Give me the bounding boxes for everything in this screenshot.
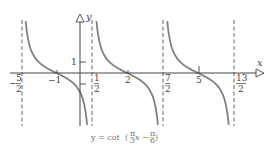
x-axis-label: x	[257, 57, 263, 68]
x-tick-label-1-den: 2	[94, 84, 100, 94]
y-tick-label-1: 1	[71, 57, 77, 67]
x-tick-label-13-num: 13	[236, 73, 248, 83]
x-tick-label-5: 5	[196, 75, 202, 85]
x-tick-label-13-den: 2	[238, 84, 244, 94]
x-axis-arrow-icon	[256, 69, 264, 77]
x-tick-label-7-num: 7	[165, 73, 171, 83]
y-axis-label: y	[85, 11, 92, 22]
caption-x-minus: x −	[135, 133, 149, 142]
caption-paren-close: )	[155, 133, 158, 142]
function-caption: y = cot ( π 3 x − π 6 )	[90, 129, 158, 145]
x-tick-label-2: 2	[125, 75, 131, 85]
cotangent-graph: x y 1 − 5 2 −1 1 2 2 7 2 5 13 2 y = cot …	[0, 0, 266, 146]
caption-prefix: y = cot	[90, 133, 121, 142]
y-axis-arrow-icon	[76, 14, 84, 22]
caption-paren-open: (	[125, 133, 128, 142]
x-tick-label-1-num: 1	[94, 73, 100, 83]
x-tick-label-neg-5-den: 2	[16, 84, 22, 94]
x-tick-label-7-den: 2	[165, 84, 171, 94]
x-tick-label-neg-5-num: 5	[16, 73, 22, 83]
x-tick-label-neg-1: −1	[48, 75, 61, 85]
